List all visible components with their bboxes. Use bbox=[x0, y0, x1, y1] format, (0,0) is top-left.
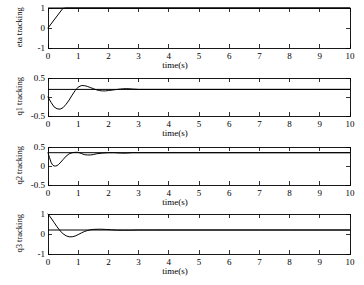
x-tick-label: 6 bbox=[227, 257, 232, 267]
x-tick-label: 1 bbox=[76, 257, 81, 267]
y-tick-label: -1 bbox=[38, 249, 46, 259]
x-tick-label: 5 bbox=[197, 257, 202, 267]
x-axis-label: time(s) bbox=[0, 267, 350, 276]
x-tick-label: 9 bbox=[318, 257, 323, 267]
x-tick-label: 0 bbox=[46, 257, 51, 267]
x-tick-label: 7 bbox=[257, 257, 262, 267]
axes-box bbox=[48, 214, 350, 254]
tracking-figure: 012345678910-101eta trackingtime(s)01234… bbox=[0, 0, 364, 285]
x-tick-label: 3 bbox=[136, 257, 141, 267]
x-tick-label: 2 bbox=[106, 257, 111, 267]
plot-area-q3-tracking: 012345678910-101 bbox=[0, 0, 364, 285]
x-tick-label: 10 bbox=[346, 257, 356, 267]
y-tick-label: 1 bbox=[41, 209, 46, 219]
y-tick-label: 0 bbox=[41, 229, 46, 239]
x-tick-label: 8 bbox=[287, 257, 292, 267]
